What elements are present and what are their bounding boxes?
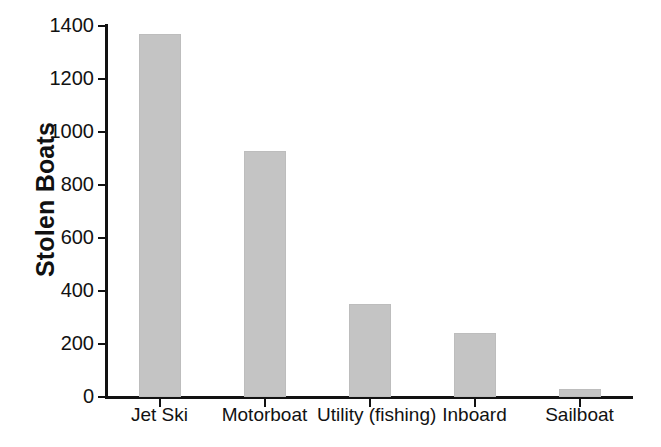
bar-inboard bbox=[454, 333, 496, 397]
y-tick-mark bbox=[98, 78, 106, 80]
y-tick-label: 1400 bbox=[34, 15, 94, 35]
y-tick-mark bbox=[98, 131, 106, 133]
y-tick-label-text: 1200 bbox=[36, 68, 94, 88]
bar-motorboat bbox=[244, 151, 286, 397]
y-tick-label-text: 1400 bbox=[36, 15, 94, 35]
y-tick-label: 600 bbox=[34, 227, 94, 247]
y-tick-mark bbox=[98, 396, 106, 398]
x-axis-label-inboard: Inboard bbox=[422, 404, 527, 426]
y-tick-label: 1200 bbox=[34, 68, 94, 88]
y-tick-label-text: 1000 bbox=[36, 121, 94, 141]
bar-jet-ski bbox=[139, 34, 181, 397]
y-tick-label-text: 200 bbox=[36, 333, 94, 353]
y-tick-mark bbox=[98, 290, 106, 292]
y-tick-label-text: 400 bbox=[36, 280, 94, 300]
y-tick-label: 400 bbox=[34, 280, 94, 300]
y-tick-mark bbox=[98, 184, 106, 186]
y-tick-label: 200 bbox=[34, 333, 94, 353]
x-axis-label-sailboat: Sailboat bbox=[527, 404, 632, 426]
x-axis-label-motorboat: Motorboat bbox=[212, 404, 317, 426]
bar-sailboat bbox=[559, 389, 601, 397]
y-tick-mark bbox=[98, 237, 106, 239]
x-axis-label-utility-fishing: Utility (fishing) bbox=[317, 404, 422, 426]
y-tick-label: 1000 bbox=[34, 121, 94, 141]
y-tick-label: 0 bbox=[34, 386, 94, 406]
bar-chart: Stolen Boats 0200400600800100012001400 J… bbox=[0, 0, 661, 447]
y-tick-mark bbox=[98, 25, 106, 27]
x-axis-label-jet-ski: Jet Ski bbox=[107, 404, 212, 426]
y-tick-label-text: 0 bbox=[36, 386, 94, 406]
y-tick-label: 800 bbox=[34, 174, 94, 194]
y-tick-mark bbox=[98, 343, 106, 345]
y-tick-label-text: 800 bbox=[36, 174, 94, 194]
y-tick-label-text: 600 bbox=[36, 227, 94, 247]
bar-utility-fishing bbox=[349, 304, 391, 397]
